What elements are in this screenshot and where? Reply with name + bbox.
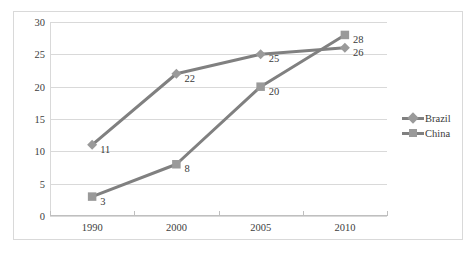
x-tick-label: 2010 xyxy=(334,222,355,233)
plot-area: 051015202530 1990200020052010 1122252638… xyxy=(50,22,387,216)
legend-item-china[interactable]: China xyxy=(402,126,460,141)
x-tick-mark xyxy=(387,211,388,216)
series-line-china xyxy=(92,35,345,197)
data-point-marker[interactable] xyxy=(88,192,97,201)
data-point-marker[interactable] xyxy=(341,31,350,40)
data-point-marker[interactable] xyxy=(340,43,350,53)
data-label: 28 xyxy=(353,33,364,44)
legend-label-brazil: Brazil xyxy=(424,113,451,124)
legend-marker-diamond-icon xyxy=(402,113,424,124)
x-tick-label: 2005 xyxy=(250,222,271,233)
data-label: 20 xyxy=(269,85,280,96)
y-tick-label: 30 xyxy=(15,17,45,28)
legend-item-brazil[interactable]: Brazil xyxy=(402,111,460,126)
series-container xyxy=(50,22,387,216)
data-label: 25 xyxy=(269,53,280,64)
gridline xyxy=(50,216,387,217)
data-label: 22 xyxy=(184,72,195,83)
data-point-marker[interactable] xyxy=(172,160,181,169)
chart-figure: 051015202530 1990200020052010 1122252638… xyxy=(13,11,463,240)
y-tick-label: 5 xyxy=(15,178,45,189)
data-label: 11 xyxy=(100,143,110,154)
y-tick-label: 10 xyxy=(15,146,45,157)
chart-legend: Brazil China xyxy=(402,111,460,141)
x-tick-label: 1990 xyxy=(82,222,103,233)
series-line-brazil xyxy=(92,48,345,145)
legend-marker-square-icon xyxy=(402,128,424,139)
data-label: 8 xyxy=(184,163,189,174)
data-label: 26 xyxy=(353,46,364,57)
data-label: 3 xyxy=(100,195,105,206)
y-tick-label: 0 xyxy=(15,211,45,222)
y-tick-label: 25 xyxy=(15,49,45,60)
data-point-marker[interactable] xyxy=(256,49,266,59)
x-tick-label: 2000 xyxy=(166,222,187,233)
legend-label-china: China xyxy=(424,128,450,139)
data-point-marker[interactable] xyxy=(256,82,265,91)
y-tick-label: 20 xyxy=(15,81,45,92)
y-tick-label: 15 xyxy=(15,114,45,125)
